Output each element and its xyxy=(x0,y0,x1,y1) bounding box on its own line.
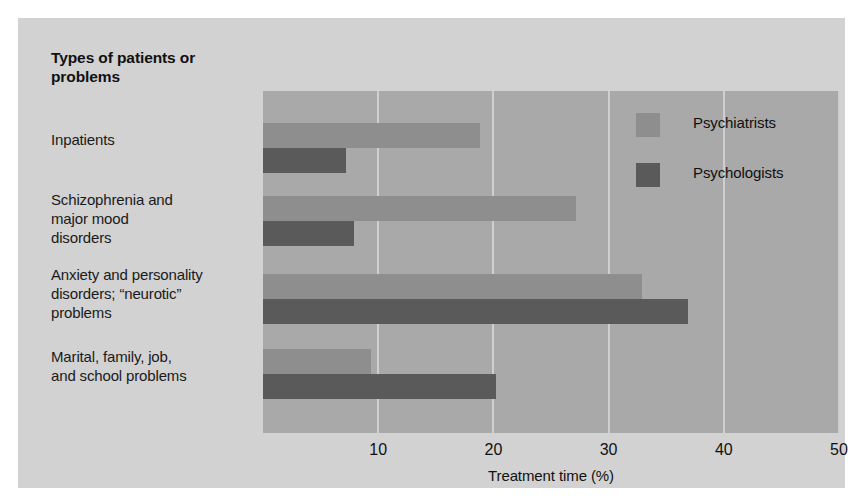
legend-swatch-psychologists xyxy=(636,163,660,187)
category-label-1: Schizophrenia andmajor mooddisorders xyxy=(51,191,263,247)
bar-psychologists-0 xyxy=(263,148,346,173)
axis-title: Types of patients or problems xyxy=(51,49,261,87)
bar-psychiatrists-0 xyxy=(263,123,480,148)
legend-swatch-psychiatrists xyxy=(636,113,660,137)
x-axis-label: Treatment time (%) xyxy=(263,467,839,484)
gridline-40 xyxy=(723,91,725,433)
plot-area: PsychiatristsPsychologists xyxy=(263,91,839,433)
figure-root: Types of patients or problems Inpatients… xyxy=(0,0,864,503)
legend-label-0: Psychiatrists xyxy=(693,114,776,131)
category-label-2: Anxiety and personalitydisorders; “neuro… xyxy=(51,266,263,322)
x-tick-label-10: 10 xyxy=(348,441,408,459)
bar-psychiatrists-3 xyxy=(263,349,371,374)
category-label-0: Inpatients xyxy=(51,131,263,150)
gridline-30 xyxy=(608,91,610,433)
category-label-3: Marital, family, job,and school problems xyxy=(51,348,263,386)
gridline-50 xyxy=(838,91,840,433)
x-tick-label-30: 30 xyxy=(579,441,639,459)
x-tick-label-40: 40 xyxy=(694,441,754,459)
chart-card: Types of patients or problems Inpatients… xyxy=(18,18,845,488)
bar-psychologists-3 xyxy=(263,374,496,399)
bar-psychiatrists-1 xyxy=(263,196,576,221)
bar-psychologists-1 xyxy=(263,221,354,246)
x-tick-label-20: 20 xyxy=(463,441,523,459)
bar-psychiatrists-2 xyxy=(263,274,642,299)
bar-psychologists-2 xyxy=(263,299,688,324)
x-tick-label-50: 50 xyxy=(809,441,864,459)
legend-label-1: Psychologists xyxy=(693,164,783,181)
